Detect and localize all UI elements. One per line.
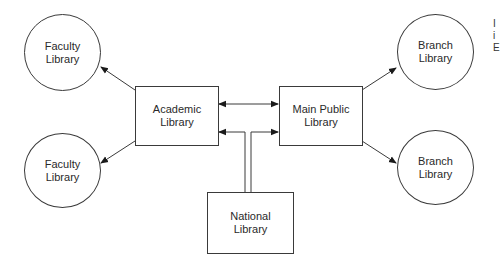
academic-library-node: Academic Library xyxy=(135,86,219,146)
edge-academic-faculty-1 xyxy=(101,67,135,90)
node-label-line: Main Public xyxy=(293,103,350,116)
cropped-side-text: I i E xyxy=(493,18,500,54)
node-label-line: Academic xyxy=(153,103,201,116)
faculty-library-node-1: Faculty Library xyxy=(24,14,101,91)
node-label-line: Faculty xyxy=(45,158,80,171)
edge-national-academic xyxy=(219,132,245,192)
national-library-node: National Library xyxy=(207,192,294,254)
node-label-line: Library xyxy=(419,52,453,65)
node-label-line: Library xyxy=(304,116,338,129)
branch-library-node-2: Branch Library xyxy=(397,130,474,205)
edge-academic-faculty-2 xyxy=(101,141,135,163)
edge-national-main-public xyxy=(251,132,278,192)
node-label-line: National xyxy=(230,210,270,223)
node-label-line: Branch xyxy=(418,39,453,52)
edge-main-public-branch-2 xyxy=(362,141,396,163)
cropped-text-line: E xyxy=(493,42,500,54)
node-label-line: Library xyxy=(46,171,80,184)
node-label-line: Library xyxy=(46,53,80,66)
edge-main-public-branch-1 xyxy=(362,68,396,90)
faculty-library-node-2: Faculty Library xyxy=(24,133,101,208)
node-label-line: Library xyxy=(160,116,194,129)
main-public-library-node: Main Public Library xyxy=(279,86,363,146)
branch-library-node-1: Branch Library xyxy=(397,14,474,90)
node-label-line: Faculty xyxy=(45,40,80,53)
cropped-text-line: i xyxy=(493,30,500,42)
node-label-line: Branch xyxy=(418,155,453,168)
cropped-text-line: I xyxy=(493,18,500,30)
node-label-line: Library xyxy=(419,168,453,181)
node-label-line: Library xyxy=(234,223,268,236)
